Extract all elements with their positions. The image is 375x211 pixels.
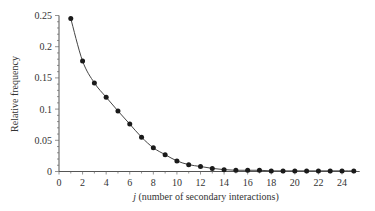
y-tick-label: 0.25 xyxy=(35,10,53,21)
chart-canvas: 00.050.10.150.20.25024681012141618202224… xyxy=(0,0,375,211)
data-point-marker xyxy=(233,168,238,173)
x-axis-label-text: (number of secondary interactions) xyxy=(136,191,279,203)
data-point-marker xyxy=(198,164,203,169)
x-tick-label: 18 xyxy=(266,177,276,188)
x-tick-label: 4 xyxy=(104,177,109,188)
data-point-marker xyxy=(340,168,345,173)
series-line xyxy=(71,19,354,171)
x-tick-label: 6 xyxy=(127,177,132,188)
data-point-marker xyxy=(174,158,179,163)
data-point-marker xyxy=(92,80,97,85)
x-tick-label: 14 xyxy=(219,177,229,188)
x-tick-label: 10 xyxy=(172,177,182,188)
x-tick-label: 24 xyxy=(337,177,347,188)
x-tick-label: 22 xyxy=(313,177,323,188)
y-tick-label: 0.1 xyxy=(40,104,53,115)
data-point-marker xyxy=(127,122,132,127)
data-point-marker xyxy=(151,145,156,150)
y-tick-label: 0 xyxy=(47,166,52,177)
data-point-marker xyxy=(115,108,120,113)
x-tick-label: 8 xyxy=(151,177,156,188)
x-tick-label: 2 xyxy=(80,177,85,188)
x-tick-label: 16 xyxy=(243,177,253,188)
data-point-marker xyxy=(222,167,227,172)
data-point-marker xyxy=(304,168,309,173)
x-tick-label: 0 xyxy=(57,177,62,188)
x-tick-label: 20 xyxy=(290,177,300,188)
data-point-marker xyxy=(281,168,286,173)
data-point-marker xyxy=(316,168,321,173)
y-tick-label: 0.05 xyxy=(35,135,53,146)
y-tick-label: 0.15 xyxy=(35,72,53,83)
data-point-marker xyxy=(163,152,168,157)
data-series xyxy=(68,16,356,173)
data-point-marker xyxy=(104,95,109,100)
line-chart: 00.050.10.150.20.25024681012141618202224… xyxy=(0,0,375,211)
data-point-marker xyxy=(328,168,333,173)
data-point-marker xyxy=(186,162,191,167)
data-point-marker xyxy=(245,168,250,173)
y-tick-label: 0.2 xyxy=(40,41,53,52)
data-point-marker xyxy=(292,168,297,173)
x-axis-label: j (number of secondary interactions) xyxy=(131,191,279,203)
data-point-marker xyxy=(139,135,144,140)
data-point-marker xyxy=(351,168,356,173)
axes: 00.050.10.150.20.25024681012141618202224 xyxy=(35,10,360,188)
data-point-marker xyxy=(257,168,262,173)
data-point-marker xyxy=(269,168,274,173)
data-point-marker xyxy=(68,16,73,21)
x-tick-label: 12 xyxy=(196,177,206,188)
y-axis-label: Relative frequency xyxy=(9,56,20,132)
data-point-marker xyxy=(80,59,85,64)
data-point-marker xyxy=(210,166,215,171)
